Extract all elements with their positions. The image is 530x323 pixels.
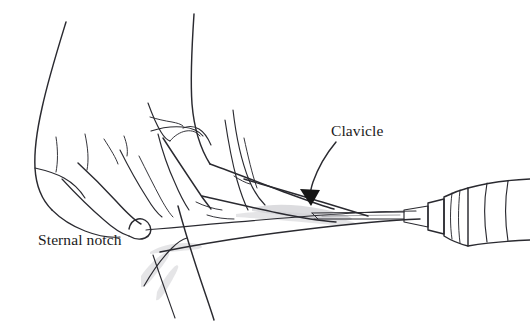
illustration-figure: Sternal notch Clavicle (0, 0, 530, 323)
illustration-canvas: Sternal notch Clavicle (0, 0, 530, 323)
sternal-notch-label: Sternal notch (38, 231, 122, 248)
annotation-sternal-notch: Sternal notch (38, 231, 122, 248)
figure-background (0, 0, 530, 323)
clavicle-label: Clavicle (331, 122, 383, 139)
